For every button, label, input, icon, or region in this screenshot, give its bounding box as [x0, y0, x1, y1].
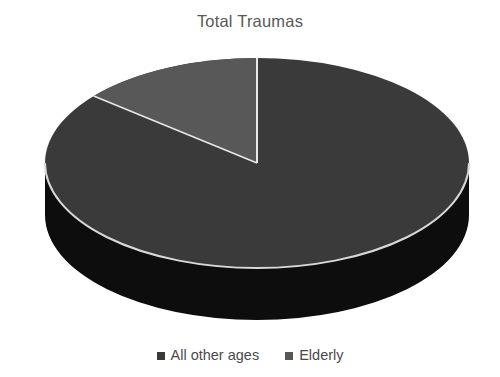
legend-item-elderly[interactable]: Elderly: [285, 348, 343, 363]
legend-item-all-other-ages[interactable]: All other ages: [157, 348, 260, 363]
legend-square-marker-icon: [157, 352, 165, 360]
legend-label-all-other-ages: All other ages: [171, 348, 260, 363]
pie-top-face: [45, 58, 469, 268]
legend-label-elderly: Elderly: [299, 348, 343, 363]
chart-title: Total Traumas: [0, 12, 500, 32]
chart-legend: All other ages Elderly: [0, 348, 500, 363]
pie-chart-graphic: [0, 40, 500, 335]
pie-chart-figure: Total Traumas All other ages E: [0, 0, 500, 377]
legend-square-marker-icon: [285, 352, 293, 360]
